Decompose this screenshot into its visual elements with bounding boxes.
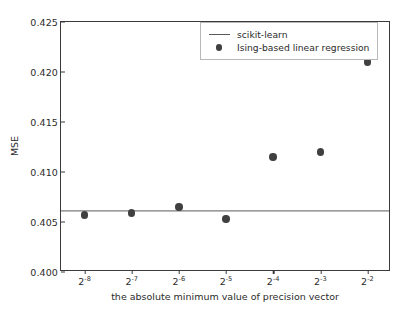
x-tick: 2-3: [314, 270, 327, 287]
y-tick: 0.400: [30, 267, 61, 278]
x-tick-label: 2-8: [78, 276, 91, 287]
x-tick-mark: [226, 270, 227, 274]
y-tick-mark: [61, 271, 65, 272]
legend-line-key-icon: [207, 34, 231, 35]
y-tick-mark: [61, 171, 65, 172]
data-point: [317, 148, 324, 155]
x-tick-label: 2-3: [314, 276, 327, 287]
x-tick: 2-7: [125, 270, 138, 287]
data-point: [128, 209, 135, 216]
x-tick: 2-5: [220, 270, 233, 287]
x-tick: 2-6: [173, 270, 186, 287]
y-tick-label: 0.410: [30, 167, 61, 178]
x-tick-mark: [367, 270, 368, 274]
legend-label: scikit-learn: [237, 29, 287, 40]
x-tick-mark: [179, 270, 180, 274]
y-tick-label: 0.425: [30, 17, 61, 28]
baseline-series-line: [61, 210, 389, 211]
y-tick: 0.410: [30, 167, 61, 178]
x-tick-label: 2-5: [220, 276, 233, 287]
x-tick-label: 2-6: [173, 276, 186, 287]
x-tick-label: 2-4: [267, 276, 280, 287]
y-tick-label: 0.415: [30, 117, 61, 128]
chart-figure: MSE the absolute minimum value of precis…: [0, 0, 409, 318]
y-tick-label: 0.405: [30, 217, 61, 228]
y-tick-label: 0.420: [30, 67, 61, 78]
y-tick: 0.415: [30, 117, 61, 128]
y-tick: 0.425: [30, 17, 61, 28]
y-tick: 0.405: [30, 217, 61, 228]
x-tick-label: 2-7: [125, 276, 138, 287]
x-tick-mark: [320, 270, 321, 274]
x-tick-label: 2-2: [361, 276, 374, 287]
legend-label: Ising-based linear regression: [237, 42, 369, 53]
y-tick-label: 0.400: [30, 267, 61, 278]
x-tick-mark: [85, 270, 86, 274]
y-tick-mark: [61, 221, 65, 222]
y-tick-mark: [61, 21, 65, 22]
x-tick: 2-8: [78, 270, 91, 287]
data-point: [222, 215, 229, 222]
x-tick-mark: [273, 270, 274, 274]
y-axis-label: MSE: [9, 136, 20, 156]
x-tick-mark: [132, 270, 133, 274]
legend-item-ising-based-linear-regression: Ising-based linear regression: [207, 41, 369, 54]
y-tick: 0.420: [30, 67, 61, 78]
legend-dot-key-icon: [207, 44, 231, 50]
data-point: [81, 211, 88, 218]
y-tick-mark: [61, 121, 65, 122]
y-tick-mark: [61, 71, 65, 72]
x-tick: 2-2: [361, 270, 374, 287]
data-point: [175, 203, 182, 210]
data-point: [269, 153, 276, 160]
x-axis-label: the absolute minimum value of precision …: [111, 291, 339, 302]
legend-item-scikit-learn: scikit-learn: [207, 28, 369, 41]
x-tick: 2-4: [267, 270, 280, 287]
chart-legend: scikit-learn Ising-based linear regressi…: [200, 22, 378, 60]
